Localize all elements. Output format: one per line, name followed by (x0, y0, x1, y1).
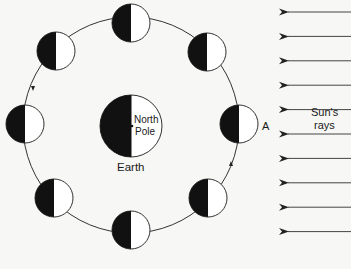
north-pole-label-line2: Pole (135, 126, 155, 137)
moon-left (6, 105, 44, 143)
moon-dark-half (112, 4, 131, 42)
moon-bottom-left (35, 179, 73, 217)
sun-label-line1: Sun's (311, 106, 339, 118)
earth: North Pole Earth (100, 95, 162, 173)
moon-top-right (188, 33, 226, 71)
moon-a-label: A (262, 120, 270, 132)
moon-top (112, 4, 150, 42)
orbit-direction-arrow-left (31, 86, 35, 91)
earth-label: Earth (117, 161, 145, 173)
moon-dark-half (35, 179, 54, 217)
moon-top-left (37, 32, 75, 70)
moon-bottom (112, 211, 150, 249)
north-pole-dot (131, 125, 134, 128)
moon-dark-half (6, 105, 25, 143)
moon-bottom-right (189, 179, 227, 217)
moon-dark-half (189, 179, 208, 217)
moon-right (220, 105, 258, 143)
moon-dark-half (37, 32, 56, 70)
moon-dark-half (112, 211, 131, 249)
sun-label-line2: rays (314, 119, 335, 131)
earth-dark-side (100, 95, 131, 157)
moon-phase-diagram: North Pole Earth A Sun's rays (0, 0, 351, 269)
moon-dark-half (188, 33, 207, 71)
north-pole-label-line1: North (134, 114, 158, 125)
moon-dark-half (220, 105, 239, 143)
